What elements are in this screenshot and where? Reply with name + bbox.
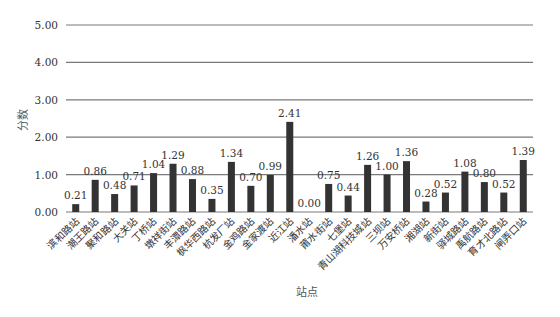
bar <box>72 204 79 212</box>
y-tick-label: 5.00 <box>35 19 58 31</box>
y-tick-label: 4.00 <box>35 56 58 68</box>
bar <box>131 185 138 212</box>
value-label: 0.52 <box>492 178 515 190</box>
value-label: 0.70 <box>239 171 262 183</box>
bar <box>403 161 410 212</box>
bar <box>500 193 507 212</box>
y-tick-label: 2.00 <box>35 131 58 143</box>
value-label: 0.35 <box>200 184 223 196</box>
bar <box>286 122 293 212</box>
value-label: 0.21 <box>64 189 87 201</box>
y-tick-label: 0.00 <box>35 206 58 218</box>
value-label: 0.71 <box>122 170 145 182</box>
bar <box>208 199 215 212</box>
value-label: 0.00 <box>298 197 321 209</box>
bar <box>384 175 391 212</box>
bar <box>481 182 488 212</box>
bar <box>150 173 157 212</box>
bar <box>92 180 99 212</box>
bar <box>325 184 332 212</box>
bar <box>170 164 177 212</box>
bar <box>520 160 527 212</box>
bar <box>247 186 254 212</box>
value-label: 0.44 <box>336 181 360 193</box>
value-label: 0.75 <box>317 169 340 181</box>
value-label: 0.52 <box>434 178 457 190</box>
y-axis-title: 分数 <box>17 109 30 131</box>
x-axis-title: 站点 <box>296 285 318 299</box>
bar <box>189 179 196 212</box>
bar <box>111 194 118 212</box>
y-tick-label: 3.00 <box>35 94 58 106</box>
value-label: 1.39 <box>512 145 535 157</box>
value-label: 0.86 <box>83 165 107 177</box>
x-axis-categories: 滨和路站潮王路站聚和路站大关站丁桥站墩祥街站丰潭路站枫华西路站杭发厂站金鸡路站金… <box>44 215 528 273</box>
bar <box>345 196 352 212</box>
y-tick-label: 1.00 <box>35 169 58 181</box>
value-label: 0.88 <box>181 164 204 176</box>
value-label: 1.29 <box>161 149 184 161</box>
y-axis-ticks: 0.001.002.003.004.005.00 <box>35 19 58 218</box>
value-label: 1.36 <box>395 146 419 158</box>
bar <box>422 202 429 212</box>
value-label: 2.41 <box>278 107 301 119</box>
bar <box>461 172 468 212</box>
bar <box>267 175 274 212</box>
value-label: 1.00 <box>375 160 398 172</box>
bar <box>364 165 371 212</box>
bar <box>442 193 449 212</box>
value-label: 0.99 <box>259 160 282 172</box>
value-label: 1.34 <box>220 147 244 159</box>
bar-chart: 0.001.002.003.004.005.00 0.210.860.480.7… <box>0 0 560 317</box>
bar <box>228 162 235 212</box>
